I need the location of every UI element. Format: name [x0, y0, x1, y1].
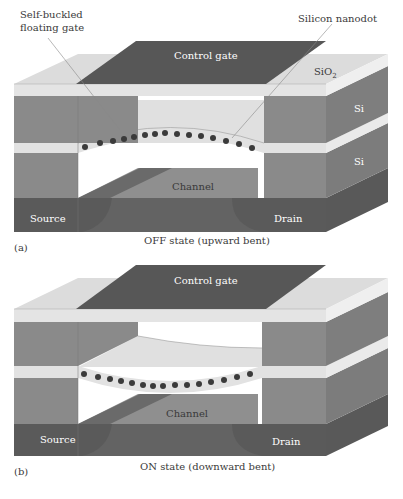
diagram-canvas: Self-buckled floating gate Silicon nanod… — [0, 0, 403, 499]
drain-label-b: Drain — [272, 436, 301, 447]
drain-label-a: Drain — [274, 213, 303, 224]
si-lower-label: Si — [354, 156, 364, 167]
floating-gate-label-2: floating gate — [20, 22, 84, 33]
control-gate-label-a: Control gate — [174, 50, 238, 61]
panel-b: Control gate Channel Source Drain ON sta… — [14, 265, 388, 477]
right-si-lower — [264, 153, 326, 198]
floating-gate-label-1: Self-buckled — [20, 9, 83, 20]
control-gate-label-b: Control gate — [174, 275, 238, 286]
panel-tag-a: (a) — [14, 242, 28, 253]
panel-a: Self-buckled floating gate Silicon nanod… — [14, 9, 388, 253]
caption-b: ON state (downward bent) — [140, 461, 275, 472]
source-label-a: Source — [30, 213, 66, 224]
right-si-upper — [264, 96, 326, 143]
panel-tag-b: (b) — [14, 466, 28, 477]
channel-label-a: Channel — [172, 181, 214, 192]
si-upper-label: Si — [354, 103, 364, 114]
left-si-upper — [14, 96, 138, 143]
source-label-b: Source — [40, 434, 76, 445]
top-oxide-front — [14, 84, 326, 96]
nanodot-label: Silicon nanodot — [298, 13, 377, 24]
caption-a: OFF state (upward bent) — [144, 235, 270, 246]
channel-label-b: Channel — [166, 408, 208, 419]
left-si-lower — [14, 153, 78, 198]
